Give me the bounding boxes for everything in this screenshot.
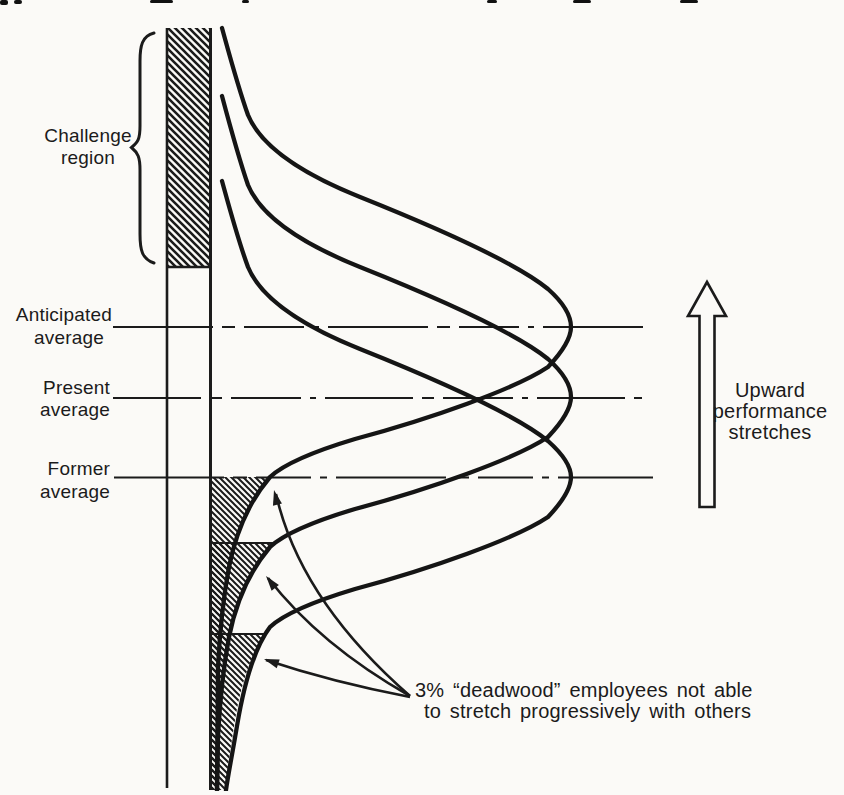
upward-label-line3: stretches xyxy=(729,421,812,443)
upward-label-line1: Upward xyxy=(735,379,805,401)
challenge-label-line1: Challenge xyxy=(44,125,131,146)
diagram-canvas: Challenge region Anticipated average Pre… xyxy=(0,0,844,795)
present-label-line2: average xyxy=(40,399,110,420)
present-label-line1: Present xyxy=(43,377,110,398)
former-label-line2: average xyxy=(40,481,110,502)
challenge-region-bar xyxy=(166,28,211,267)
anticipated-label-line1: Anticipated xyxy=(16,304,112,325)
challenge-region-hatch xyxy=(168,28,210,267)
former-label-line1: Former xyxy=(48,458,111,479)
challenge-label-line2: region xyxy=(61,147,115,168)
figure-stage: Challenge region Anticipated average Pre… xyxy=(0,0,844,795)
deadwood-note-line1: 3% “deadwood” employees not able xyxy=(415,679,753,701)
upward-label-line2: performance xyxy=(713,400,827,422)
deadwood-note-line2: to stretch progressively with others xyxy=(424,700,751,722)
anticipated-label-line2: average xyxy=(34,327,104,348)
